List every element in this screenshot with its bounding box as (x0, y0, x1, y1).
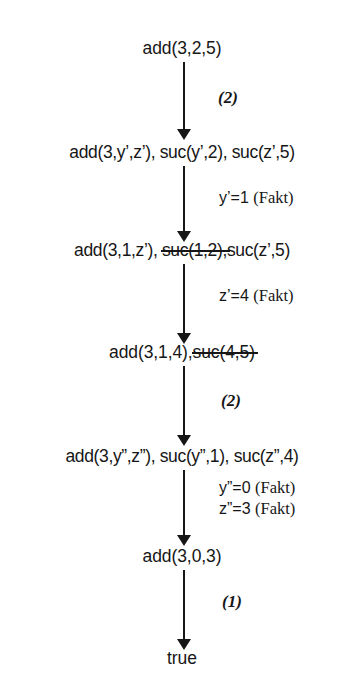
node-text-struck: suc(1,2), (162, 240, 227, 260)
edge-label-subst-y1: y’=1 (Fakt) (219, 188, 294, 207)
node-add-3-1-zp: add(3,1,z’), suc(1,2),suc(z’,5) (0, 240, 364, 260)
node-text: add(3,2,5) (143, 38, 222, 58)
arrow-head-icon (177, 129, 191, 140)
node-text-part: suc(z’,5) (227, 240, 290, 260)
edge-arrow-5 (175, 470, 193, 546)
node-add-3-yp-zp: add(3,y’,z’), suc(y’,2), suc(z’,5) (0, 142, 364, 162)
edge-label-subst-z3: z”=3 (Fakt) (219, 499, 295, 518)
subst-value: y’=1 (219, 189, 249, 206)
edge-arrow-1 (175, 62, 193, 140)
arrow-head-icon (177, 535, 191, 546)
arrow-head-icon (177, 435, 191, 446)
node-text: add(3,y’,z’), suc(y’,2), suc(z’,5) (69, 142, 294, 162)
subst-value: z”=3 (219, 500, 251, 517)
edge-label-rule-2-b: (2) (221, 391, 241, 410)
edge-label-subst-y0: y”=0 (Fakt) (219, 478, 295, 497)
node-add-3-2-5: add(3,2,5) (0, 38, 364, 58)
node-text-struck: suc(4,5) (193, 342, 255, 362)
node-text: true (167, 648, 197, 668)
node-text: add(3,0,3) (143, 546, 222, 566)
edge-label-subst-z4: z’=4 (Fakt) (219, 286, 294, 305)
node-text-part: add(3,1,4), (109, 342, 193, 362)
arrow-stem (183, 166, 185, 231)
arrow-stem (183, 62, 185, 129)
edge-label-rule-1: (1) (222, 592, 242, 611)
node-text-part: add(3,1,z’), (74, 240, 162, 260)
subst-note: (Fakt) (255, 478, 295, 497)
subst-value: y”=0 (219, 479, 251, 496)
subst-note: (Fakt) (253, 286, 293, 305)
edge-arrow-4 (175, 366, 193, 446)
edge-label-rule-2-a: (2) (218, 88, 238, 107)
edge-arrow-6 (175, 570, 193, 650)
arrow-stem (183, 264, 185, 333)
subst-note: (Fakt) (253, 188, 293, 207)
node-true: true (0, 648, 364, 668)
arrow-stem (183, 470, 185, 535)
derivation-diagram: add(3,2,5) (2) add(3,y’,z’), suc(y’,2), … (0, 0, 364, 688)
subst-value: z’=4 (219, 287, 249, 304)
edge-arrow-2 (175, 166, 193, 242)
node-add-3-ypp-zpp: add(3,y”,z”), suc(y”,1), suc(z”,4) (0, 446, 364, 466)
arrow-stem (183, 366, 185, 435)
node-add-3-1-4: add(3,1,4),suc(4,5) (0, 342, 364, 362)
edge-arrow-3 (175, 264, 193, 344)
arrow-stem (183, 570, 185, 639)
node-add-3-0-3: add(3,0,3) (0, 546, 364, 566)
node-text: add(3,y”,z”), suc(y”,1), suc(z”,4) (65, 446, 298, 466)
subst-note: (Fakt) (255, 499, 295, 518)
